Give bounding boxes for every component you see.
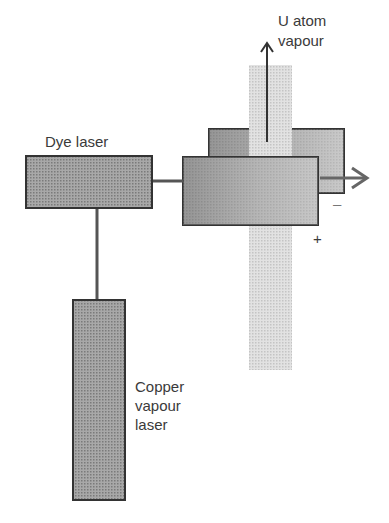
- dye-laser-label: Dye laser: [45, 133, 108, 151]
- dye-laser-box: [26, 156, 152, 208]
- front-electrode-plate: [183, 157, 318, 225]
- copper-label-line1: Copper: [135, 378, 184, 396]
- minus-sign: –: [333, 195, 341, 213]
- copper-vapour-laser-box: [73, 300, 125, 500]
- u-atom-label: U atom: [278, 12, 326, 30]
- copper-label-line2: vapour: [135, 397, 181, 415]
- plus-sign: +: [313, 230, 322, 248]
- copper-label-line3: laser: [135, 416, 168, 434]
- diagram-canvas: [0, 0, 389, 523]
- vapour-label: vapour: [278, 32, 324, 50]
